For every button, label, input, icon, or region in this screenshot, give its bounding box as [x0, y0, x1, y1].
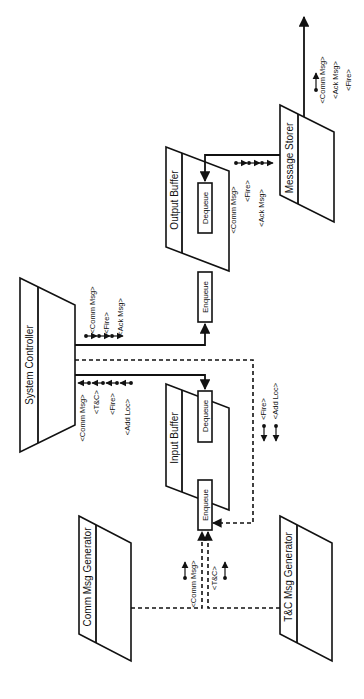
- comm-msg-generator-block[interactable]: Comm Msg Generator: [79, 516, 131, 661]
- msg-label: <Comm Msg>: [78, 394, 87, 442]
- msg-label: <Ack Msg>: [257, 189, 266, 227]
- system-controller-label: System Controller: [24, 325, 35, 405]
- msg-label: <Fire>: [108, 393, 117, 415]
- msg-label: <Comm Msg>: [88, 286, 97, 334]
- input-to-controller-connector: [75, 375, 205, 389]
- msg-label: <Fire>: [102, 312, 111, 334]
- msg-label: <Fire>: [259, 398, 268, 420]
- msg-label: <Comm Msg>: [189, 560, 198, 608]
- msg-label: <Add Loc>: [271, 382, 280, 419]
- output-buffer-label: Output Buffer: [169, 170, 180, 230]
- message-storer-label: Message Storer: [284, 122, 295, 193]
- input-enqueue-label: Enqueue: [201, 488, 210, 521]
- controller-input-dashed-flow-icon: [264, 426, 276, 441]
- msg-label: <Ack Msg>: [116, 298, 125, 336]
- msg-label: <Fire>: [344, 69, 353, 91]
- msg-label: <Comm Msg>: [318, 56, 327, 104]
- output-enqueue-label: Enqueue: [201, 280, 210, 313]
- output-buffer-block[interactable]: Output Buffer Dequeue Enqueue: [166, 147, 229, 322]
- msg-label: <Add Loc>: [123, 398, 132, 435]
- comm-msg-generator-label: Comm Msg Generator: [82, 527, 93, 627]
- message-storer-block[interactable]: Message Storer: [280, 105, 334, 222]
- msg-label: <T&C>: [92, 390, 101, 414]
- output-dequeue-label: Dequeue: [201, 191, 210, 224]
- msg-label: <Ack Msg>: [331, 61, 340, 99]
- input-buffer-block[interactable]: Input Buffer Dequeue Enqueue: [166, 384, 229, 530]
- msg-label: <Fire>: [243, 180, 252, 202]
- msg-label: <T&C>: [210, 566, 219, 590]
- tc-msg-generator-block[interactable]: T&C Msg Generator: [280, 516, 332, 661]
- system-controller-block[interactable]: System Controller: [20, 278, 75, 452]
- msg-label: <Comm Msg>: [229, 186, 238, 234]
- input-buffer-label: Input Buffer: [169, 412, 180, 464]
- tc-msg-generator-label: T&C Msg Generator: [283, 532, 294, 622]
- input-dequeue-label: Dequeue: [201, 399, 210, 432]
- system-block-diagram: System Controller Output Buffer Dequeue …: [0, 0, 364, 699]
